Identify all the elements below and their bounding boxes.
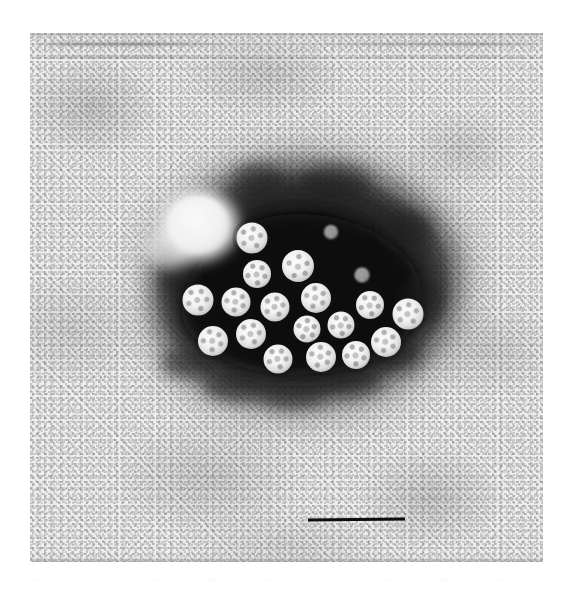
virus-particle <box>342 341 370 369</box>
page-ghost-mark: — <box>266 574 307 584</box>
page-ghost-mark: — <box>440 574 481 584</box>
page-ghost-marks: ————————— <box>34 572 539 586</box>
virus-particle <box>282 250 314 282</box>
virus-particle <box>237 223 268 254</box>
virus-particle <box>243 260 271 288</box>
capsomere-texture <box>356 269 369 282</box>
virus-particle <box>356 291 384 319</box>
page-ghost-mark: — <box>208 574 249 584</box>
virus-particle <box>198 326 228 356</box>
virus-particle <box>393 299 424 330</box>
virus-particle <box>328 312 355 339</box>
page-ghost-mark: — <box>382 574 423 584</box>
page-ghost-mark: — <box>92 574 133 584</box>
virus-particle <box>324 225 338 239</box>
capsomere-texture <box>325 226 337 238</box>
virus-particle <box>236 319 266 349</box>
page-ghost-mark: — <box>150 574 191 584</box>
virus-particle <box>301 283 331 313</box>
virus-particle <box>306 342 336 372</box>
virus-particle <box>261 293 290 322</box>
page-ghost-mark: — <box>498 574 539 584</box>
virus-particle <box>355 268 370 283</box>
figure-root: (a) ————————— <box>0 0 573 591</box>
virus-particle <box>371 327 401 357</box>
virus-particle <box>183 285 214 316</box>
plate-bottom-edge <box>30 559 543 562</box>
virus-particle <box>222 288 251 317</box>
page-ghost-mark: — <box>34 574 75 584</box>
virus-particle <box>264 345 293 374</box>
page-ghost-mark: — <box>324 574 365 584</box>
electron-micrograph-image: (a) <box>30 33 543 562</box>
virus-particle-layer <box>30 33 543 562</box>
